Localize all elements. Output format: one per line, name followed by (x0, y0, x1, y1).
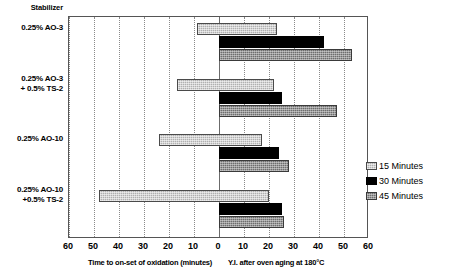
category-label: 0.25% AO-10 +0.5% TS-2 (0, 185, 63, 204)
chart-container: Stabilizer 0.25% AO-30.25% AO-3 + 0.5% T… (0, 0, 449, 276)
bar (219, 36, 324, 48)
bar (219, 92, 282, 104)
category-label: 0.25% AO-10 (0, 134, 63, 144)
right-axis-title: Y.I. after oven aging at 180°C (228, 258, 324, 267)
bar (99, 190, 269, 202)
legend-label: 30 Minutes (379, 176, 423, 186)
bar (159, 134, 262, 146)
legend-swatch (366, 162, 377, 170)
chart-legend: 15 Minutes30 Minutes45 Minutes (366, 158, 449, 203)
bar (219, 105, 337, 117)
bar (219, 147, 279, 159)
plot-area (68, 16, 368, 238)
category-label: 0.25% AO-3 + 0.5% TS-2 (0, 74, 63, 93)
left-axis-title: Time to on-set of oxidation (minutes) (88, 258, 212, 267)
bar (197, 23, 277, 35)
category-label: 0.25% AO-3 (0, 23, 63, 33)
legend-label: 15 Minutes (379, 161, 423, 171)
x-tick-label: 60 (353, 241, 383, 251)
category-band (69, 17, 367, 73)
category-axis-header: Stabilizer (0, 3, 63, 12)
category-band (69, 184, 367, 239)
legend-item[interactable]: 45 Minutes (366, 188, 449, 203)
bar (219, 160, 289, 172)
legend-swatch (366, 177, 377, 185)
bar (219, 49, 352, 61)
bar (177, 79, 275, 91)
legend-item[interactable]: 15 Minutes (366, 158, 449, 173)
legend-item[interactable]: 30 Minutes (366, 173, 449, 188)
bar (219, 216, 284, 228)
legend-swatch (366, 192, 377, 200)
category-band (69, 73, 367, 129)
category-band (69, 128, 367, 184)
legend-label: 45 Minutes (379, 191, 423, 201)
bar (219, 203, 282, 215)
